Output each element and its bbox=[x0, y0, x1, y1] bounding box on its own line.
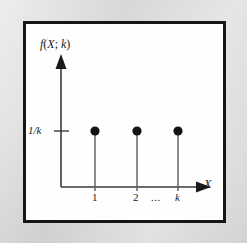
x-tick-label-k: k bbox=[175, 192, 180, 203]
data-point-marker-2 bbox=[132, 126, 141, 135]
figure-container: f(X; k) 1/k X 1 2 ... k bbox=[0, 0, 247, 243]
x-axis-label: X bbox=[204, 178, 211, 190]
plot-drawing bbox=[26, 24, 223, 220]
y-tick-label-1-over-k: 1/k bbox=[28, 125, 41, 136]
x-tick-label-2: 2 bbox=[133, 192, 139, 203]
plot-canvas bbox=[26, 24, 223, 220]
plot-frame-border bbox=[23, 21, 226, 223]
y-axis-label-variable: X bbox=[47, 37, 54, 51]
x-tick-label-ellipsis: ... bbox=[151, 192, 161, 203]
y-axis-arrowhead bbox=[56, 54, 67, 69]
data-point-marker-1 bbox=[90, 126, 99, 135]
data-point-marker-k bbox=[173, 126, 182, 135]
x-tick-label-1: 1 bbox=[92, 192, 98, 203]
y-axis-label: f(X; k) bbox=[40, 38, 70, 50]
y-axis-label-close-paren: ) bbox=[66, 37, 70, 51]
y-axis-label-separator: ; bbox=[55, 37, 58, 51]
